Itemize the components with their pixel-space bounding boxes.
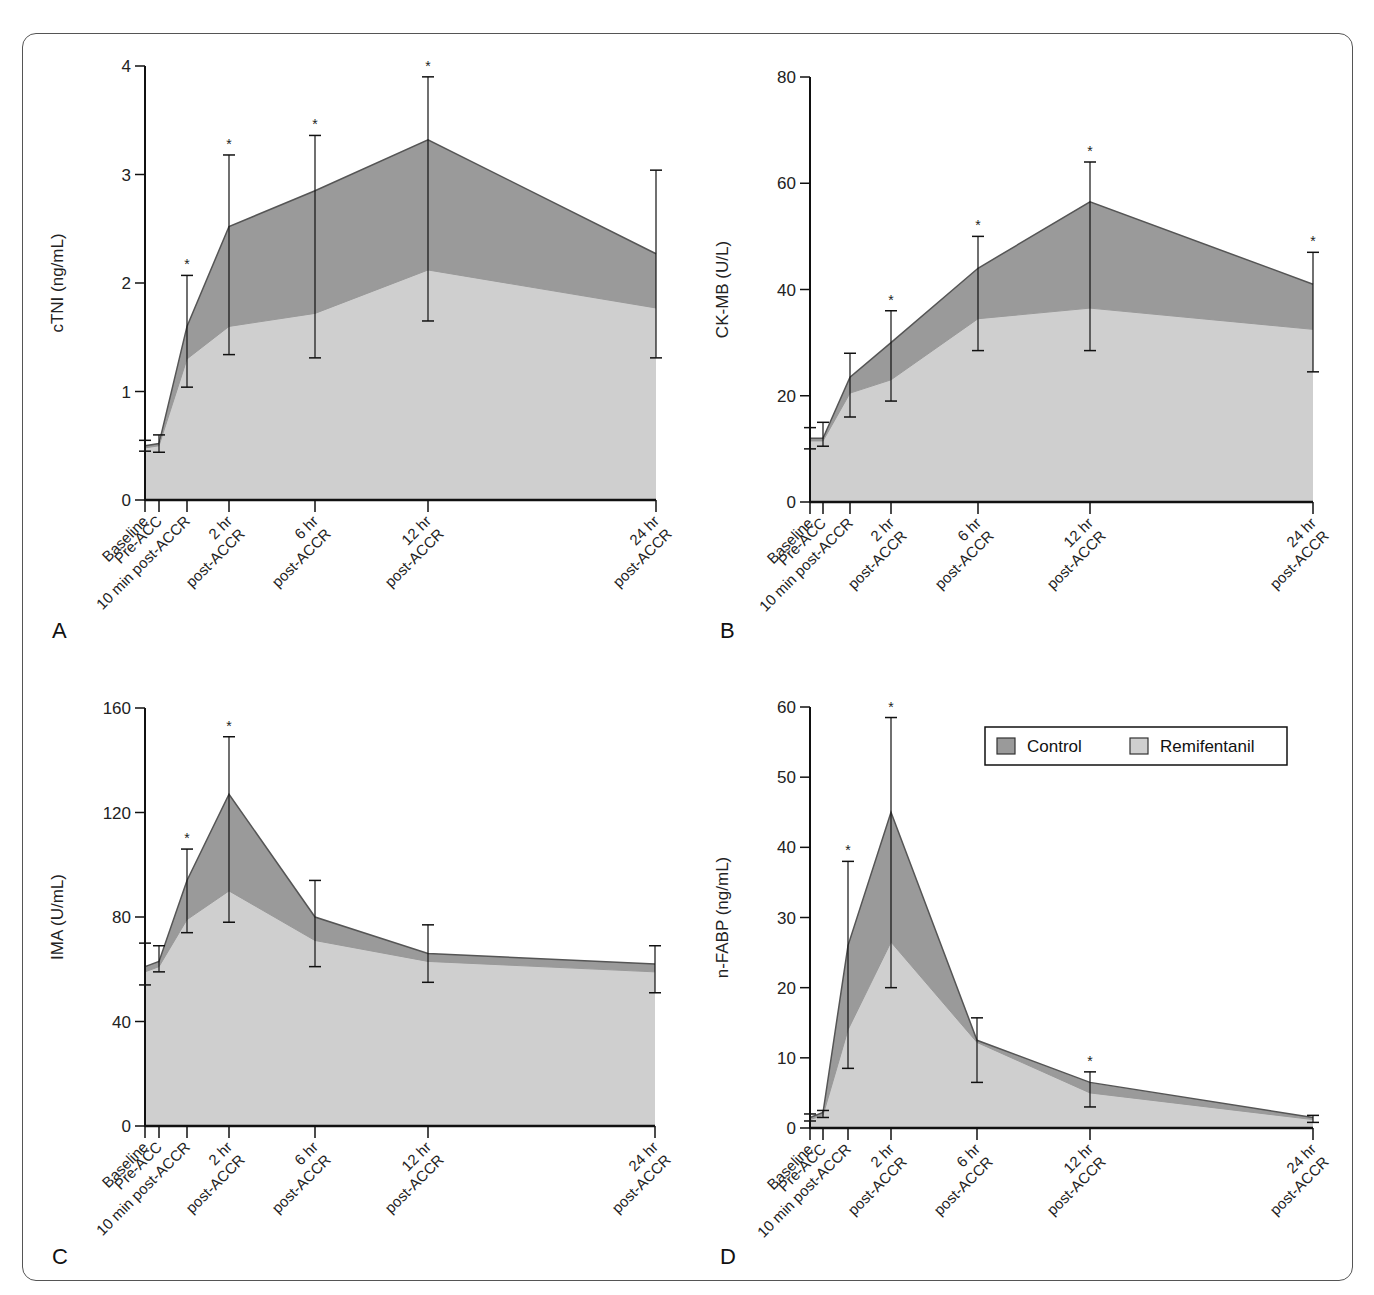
x-tick-label: 12 hrpost-ACCR [368, 1138, 447, 1217]
significance-star: * [975, 217, 981, 233]
y-tick-label: 60 [777, 698, 796, 717]
x-tick-label: 24 hrpost-ACCR [595, 1138, 674, 1217]
y-tick-label: 80 [112, 908, 131, 927]
x-tick-label: 6 hrpost-ACCR [255, 512, 334, 591]
panel-letter: C [52, 1244, 68, 1269]
significance-star: * [1087, 1053, 1093, 1069]
significance-star: * [1310, 233, 1316, 249]
x-tick-label: 12 hrpost-ACCR [1030, 1140, 1109, 1219]
significance-star: * [1087, 143, 1093, 159]
significance-star: * [888, 292, 894, 308]
remifentanil-area [810, 942, 1313, 1128]
significance-star: * [184, 830, 190, 846]
legend-label-control: Control [1027, 737, 1082, 756]
panel-letter: D [720, 1244, 736, 1269]
y-axis-title: IMA (U/mL) [48, 874, 67, 960]
x-tick-label: 6 hrpost-ACCR [918, 514, 997, 593]
y-tick-label: 0 [122, 1117, 131, 1136]
panel-b-ckmb-chart: ****020406080CK-MB (U/L)BaselinePre-ACC1… [713, 68, 1332, 643]
x-tick-label: 12 hrpost-ACCR [368, 512, 447, 591]
y-tick-label: 50 [777, 768, 796, 787]
y-tick-label: 80 [777, 68, 796, 87]
significance-star: * [184, 256, 190, 272]
panel-d-nfabp-chart: ***0102030405060n-FABP (ng/mL)BaselinePr… [713, 698, 1332, 1269]
significance-star: * [312, 116, 318, 132]
y-tick-label: 20 [777, 387, 796, 406]
y-tick-label: 0 [787, 1119, 796, 1138]
y-tick-label: 160 [103, 699, 131, 718]
y-tick-label: 40 [777, 838, 796, 857]
y-axis-title: cTNI (ng/mL) [48, 233, 67, 332]
y-tick-label: 40 [777, 281, 796, 300]
legend-swatch-control [997, 738, 1015, 754]
y-tick-label: 20 [777, 979, 796, 998]
panel-letter: B [720, 618, 735, 643]
remifentanil-area [145, 891, 655, 1126]
panel-c-ima-chart: **04080120160IMA (U/mL)BaselinePre-ACC10… [48, 699, 674, 1269]
y-tick-label: 30 [777, 909, 796, 928]
y-tick-label: 3 [122, 166, 131, 185]
legend: Control Remifentanil [985, 727, 1287, 765]
y-tick-label: 0 [787, 493, 796, 512]
legend-swatch-remifentanil [1130, 738, 1148, 754]
y-tick-label: 2 [122, 274, 131, 293]
y-tick-label: 0 [122, 491, 131, 510]
y-tick-label: 10 [777, 1049, 796, 1068]
x-tick-label: 24 hrpost-ACCR [596, 512, 675, 591]
significance-star: * [888, 699, 894, 715]
significance-star: * [845, 842, 851, 858]
x-tick-label: 6 hrpost-ACCR [255, 1138, 334, 1217]
x-tick-label: 24 hrpost-ACCR [1253, 1140, 1332, 1219]
significance-star: * [425, 58, 431, 74]
x-tick-label: 24 hrpost-ACCR [1253, 514, 1332, 593]
panel-letter: A [52, 618, 67, 643]
y-tick-label: 40 [112, 1013, 131, 1032]
y-axis-title: n-FABP (ng/mL) [713, 857, 732, 979]
x-tick-label: 6 hrpost-ACCR [917, 1140, 996, 1219]
legend-label-remifentanil: Remifentanil [1160, 737, 1255, 756]
y-tick-label: 60 [777, 174, 796, 193]
remifentanil-area [810, 308, 1313, 502]
x-tick-label: 12 hrpost-ACCR [1030, 514, 1109, 593]
figure-canvas: ****01234cTNI (ng/mL)BaselinePre-ACC10 m… [0, 0, 1374, 1295]
panel-a-ctni-chart: ****01234cTNI (ng/mL)BaselinePre-ACC10 m… [48, 57, 675, 643]
y-tick-label: 1 [122, 383, 131, 402]
significance-star: * [226, 136, 232, 152]
y-tick-label: 120 [103, 804, 131, 823]
y-tick-label: 4 [122, 57, 131, 76]
y-axis-title: CK-MB (U/L) [713, 241, 732, 338]
significance-star: * [226, 718, 232, 734]
